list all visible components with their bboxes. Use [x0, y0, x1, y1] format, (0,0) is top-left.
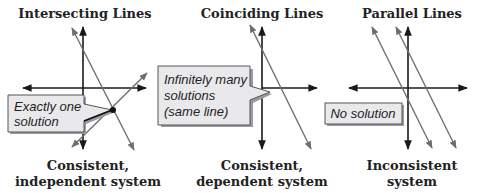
panel-caption: independent system — [15, 174, 161, 189]
panel-intersecting: Intersecting Lines Exactly one solution … — [8, 6, 161, 189]
intersection-point — [110, 107, 116, 113]
callout-text-line: (same line) — [164, 104, 228, 119]
panel-caption: Consistent, — [221, 158, 303, 173]
panel-caption: dependent system — [196, 174, 328, 189]
callout-text-line: solutions — [164, 88, 216, 103]
panel-coinciding: Coinciding Lines Infinitely many solutio… — [158, 6, 328, 189]
callout-infinitely-many-solutions: Infinitely many solutions (same line) — [158, 66, 272, 127]
callout-exactly-one-solution: Exactly one solution — [8, 95, 115, 134]
callout-text-line: Infinitely many — [164, 72, 249, 87]
panel-title: Intersecting Lines — [18, 6, 151, 21]
callout-text-line: solution — [14, 114, 59, 129]
callout-text-line: Exactly one — [14, 99, 81, 114]
panel-title: Parallel Lines — [362, 6, 462, 21]
panel-caption: Inconsistent — [367, 158, 458, 173]
coinciding-line — [250, 25, 311, 149]
callout-no-solution: No solution — [325, 103, 404, 126]
systems-of-equations-diagram: Intersecting Lines Exactly one solution … — [0, 0, 478, 193]
panel-parallel: Parallel Lines No solution Inconsistent … — [325, 6, 467, 189]
panel-caption: Consistent, — [47, 158, 129, 173]
callout-text-line: No solution — [330, 106, 395, 121]
panel-title: Coinciding Lines — [201, 6, 323, 21]
panel-caption: system — [387, 174, 437, 189]
